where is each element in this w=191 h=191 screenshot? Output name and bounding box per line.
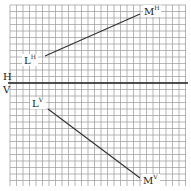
projection-diagram: H V LH MH LV MV	[0, 0, 191, 191]
h-plane-label: H	[3, 71, 12, 82]
point-label-mv: MV	[142, 173, 160, 186]
line-lm-horizontal-projection	[45, 14, 140, 56]
point-label-lh: LH	[22, 53, 38, 66]
v-plane-label: V	[2, 84, 11, 95]
point-label-mh: MH	[143, 4, 161, 17]
point-label-lv: LV	[30, 96, 46, 109]
